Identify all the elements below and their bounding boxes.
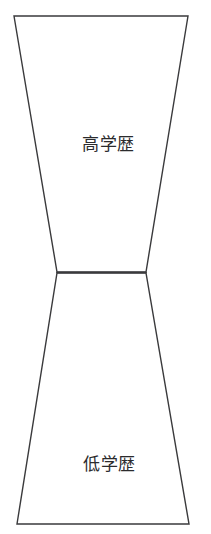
upper-segment-label: 高学歴 (0, 136, 211, 153)
lower-trapezoid-shape (17, 273, 189, 524)
education-distribution-diagram: 高学歴 低学歴 (0, 0, 211, 534)
lower-segment-label: 低学歴 (0, 456, 211, 473)
